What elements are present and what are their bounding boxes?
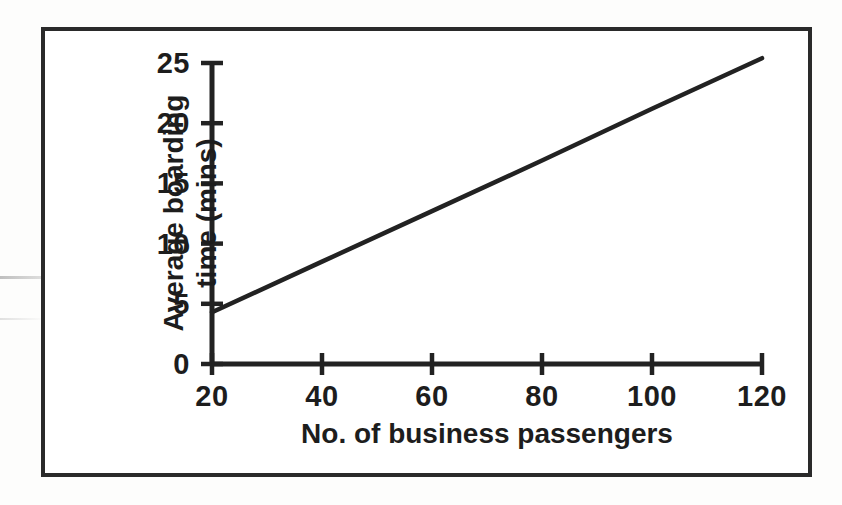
y-axis-tick-label: 25 [102, 47, 190, 80]
y-axis-title-line-1: Average boarding [157, 83, 190, 343]
x-axis-tick-label: 60 [415, 380, 448, 413]
x-axis-tick-label: 80 [525, 380, 558, 413]
chart-page: 0510152025 20406080100120 No. of busines… [0, 0, 842, 505]
y-axis-title-line-2: time (mins) [190, 83, 223, 343]
x-axis-tick-label: 120 [737, 380, 787, 413]
x-axis-tick-label: 20 [195, 380, 228, 413]
y-axis-title: Average boarding time (mins) [157, 83, 223, 343]
x-axis-title: No. of business passengers [301, 418, 673, 450]
x-axis-tick-label: 40 [305, 380, 338, 413]
x-axis-tick-label: 100 [627, 380, 677, 413]
plot-area: 0510152025 20406080100120 No. of busines… [0, 0, 842, 505]
data-series-line [212, 58, 762, 312]
y-axis-tick-label: 0 [102, 348, 190, 381]
